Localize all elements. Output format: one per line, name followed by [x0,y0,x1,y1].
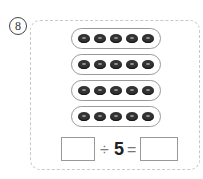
donut-icon [94,60,106,69]
dividend-answer-box[interactable] [61,137,95,161]
divisor: 5 [114,138,124,160]
problem-number: 8 [9,17,27,35]
divide-sign: ÷ [100,140,109,160]
donut-icon [110,34,122,43]
donut-group-2 [71,54,161,75]
donut-icon [126,112,138,121]
quotient-answer-box[interactable] [140,137,178,161]
donut-icon [110,86,122,95]
donut-icon [78,34,90,43]
donut-icon [94,112,106,121]
donut-icon [142,86,154,95]
donut-icon [126,60,138,69]
donut-icon [126,86,138,95]
donut-icon [110,112,122,121]
donut-icon [110,60,122,69]
donut-icon [78,112,90,121]
donut-icon [78,60,90,69]
equals-sign: = [127,140,136,160]
donut-icon [78,86,90,95]
donut-group-1 [71,28,161,49]
donut-icon [142,60,154,69]
donut-icon [142,34,154,43]
donut-group-4 [71,106,161,127]
donut-group-3 [71,80,161,101]
donut-icon [94,34,106,43]
donut-icon [94,86,106,95]
donut-icon [142,112,154,121]
donut-icon [126,34,138,43]
